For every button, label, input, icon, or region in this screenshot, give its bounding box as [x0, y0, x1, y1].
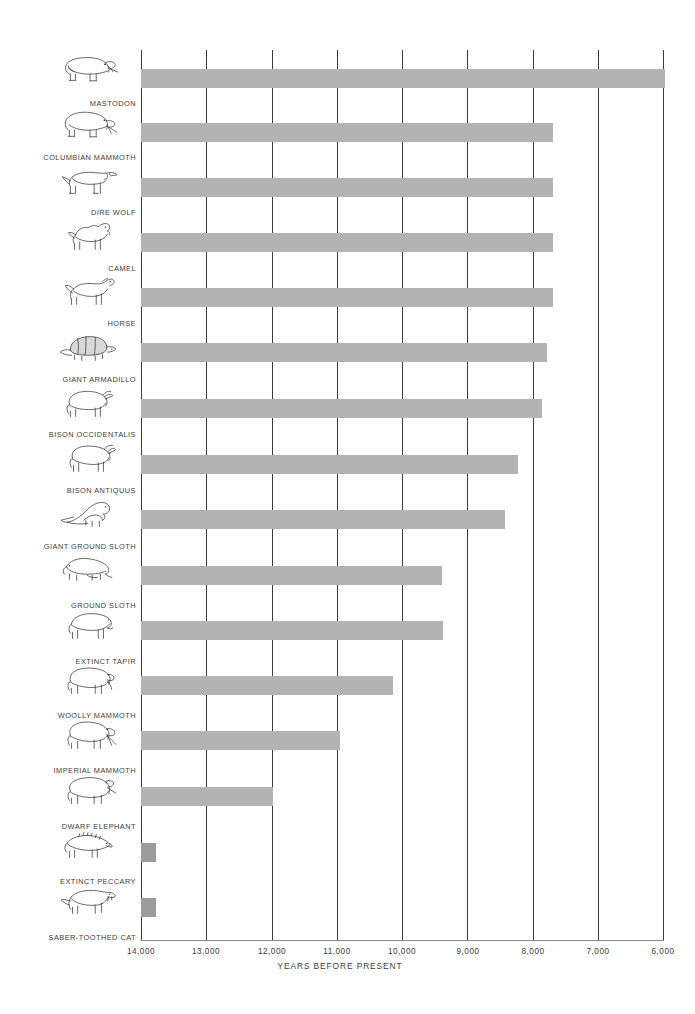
- bison-antiquus-icon: [58, 440, 120, 476]
- bar-camel: [141, 233, 553, 252]
- ground-sloth-icon: [56, 551, 118, 587]
- category-label-bison-occidentalis: BISON OCCIDENTALIS: [0, 430, 136, 439]
- category-label-giant-ground-sloth: GIANT GROUND SLOTH: [0, 542, 136, 551]
- tick-label-10000: 10,000: [379, 947, 425, 956]
- category-label-bison-antiquus: BISON ANTIQUUS: [0, 486, 136, 495]
- axis-baseline: [141, 940, 664, 941]
- category-label-columbian-mammoth: COLUMBIAN MAMMOTH: [0, 153, 136, 162]
- bar-saber-toothed-cat: [141, 898, 156, 917]
- imperial-mammoth-icon: [58, 717, 120, 753]
- tick-label-14000: 14,000: [118, 947, 164, 956]
- columbian-mammoth-icon: [58, 108, 120, 144]
- bison-occidentalis-icon: [56, 385, 118, 421]
- saber-toothed-cat-icon: [58, 884, 120, 920]
- tick-label-12000: 12,000: [249, 947, 295, 956]
- tick-label-6000: 6,000: [640, 947, 686, 956]
- bar-bison-occidentalis: [141, 399, 542, 418]
- extinct-tapir-icon: [58, 607, 120, 643]
- extinct-peccary-icon: [56, 828, 118, 864]
- extinction-timeline-chart: MASTODON COLUMBIAN MAMMOTH DIRE WOLF CAM…: [0, 0, 695, 1014]
- gridline-7000: [598, 50, 599, 940]
- bar-mastodon: [141, 69, 665, 88]
- horse-icon: [58, 274, 120, 310]
- bar-dwarf-elephant: [141, 787, 273, 806]
- category-label-dwarf-elephant: DWARF ELEPHANT: [0, 822, 136, 831]
- bar-dire-wolf: [141, 178, 553, 197]
- bar-horse: [141, 288, 553, 307]
- category-label-giant-armadillo: GIANT ARMADILLO: [0, 375, 136, 384]
- dwarf-elephant-icon: [58, 772, 120, 808]
- tick-label-11000: 11,000: [314, 947, 360, 956]
- tick-label-8000: 8,000: [510, 947, 556, 956]
- category-label-extinct-tapir: EXTINCT TAPIR: [0, 657, 136, 666]
- plot-area: MASTODON COLUMBIAN MAMMOTH DIRE WOLF CAM…: [0, 0, 695, 1014]
- tick-label-13000: 13,000: [183, 947, 229, 956]
- category-label-saber-toothed-cat: SABER-TOOTHED CAT: [0, 933, 136, 942]
- bar-giant-armadillo: [141, 343, 547, 362]
- dire-wolf-icon: [58, 164, 120, 200]
- bar-imperial-mammoth: [141, 731, 340, 750]
- camel-icon: [58, 219, 120, 255]
- bar-extinct-tapir: [141, 621, 443, 640]
- category-label-mastodon: MASTODON: [0, 99, 136, 108]
- gridline-6000: [663, 50, 664, 940]
- bar-ground-sloth: [141, 566, 442, 585]
- bar-bison-antiquus: [141, 455, 518, 474]
- bar-extinct-peccary: [141, 843, 156, 862]
- category-label-woolly-mammoth: WOOLLY MAMMOTH: [0, 711, 136, 720]
- bar-giant-ground-sloth: [141, 510, 505, 529]
- x-axis-title: YEARS BEFORE PRESENT: [60, 961, 620, 971]
- bar-woolly-mammoth: [141, 676, 393, 695]
- category-label-dire-wolf: DIRE WOLF: [0, 208, 136, 217]
- giant-ground-sloth-icon: [58, 496, 120, 532]
- tick-label-7000: 7,000: [575, 947, 621, 956]
- woolly-mammoth-icon: [58, 662, 120, 698]
- bar-columbian-mammoth: [141, 123, 553, 142]
- category-label-camel: CAMEL: [0, 264, 136, 273]
- category-label-horse: HORSE: [0, 319, 136, 328]
- tick-label-9000: 9,000: [445, 947, 491, 956]
- category-label-imperial-mammoth: IMPERIAL MAMMOTH: [0, 766, 136, 775]
- category-label-ground-sloth: GROUND SLOTH: [0, 601, 136, 610]
- category-label-extinct-peccary: EXTINCT PECCARY: [0, 877, 136, 886]
- mastodon-icon: [58, 52, 120, 88]
- giant-armadillo-icon: [56, 330, 118, 366]
